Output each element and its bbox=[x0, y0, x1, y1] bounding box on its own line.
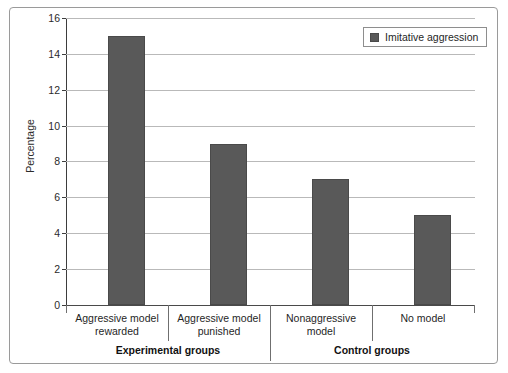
bar-nonaggressive-model[interactable] bbox=[312, 179, 349, 305]
y-tick-label: 12 bbox=[34, 85, 60, 95]
y-axis-title: Percentage bbox=[24, 96, 36, 196]
bar-no-model[interactable] bbox=[414, 215, 451, 305]
group-label-control: Control groups bbox=[270, 344, 474, 356]
bar-aggressive-model-punished[interactable] bbox=[210, 144, 247, 305]
category-label-nonaggressive-model: Nonaggressive model bbox=[270, 312, 372, 337]
y-tick-label: 0 bbox=[34, 300, 60, 310]
category-label-line2: rewarded bbox=[66, 325, 168, 338]
plot-area bbox=[66, 18, 475, 305]
category-label-aggressive-model-punished: Aggressive model punished bbox=[168, 312, 270, 337]
axis-tick-right-edge bbox=[474, 305, 475, 313]
y-tick-label: 6 bbox=[34, 192, 60, 202]
category-label-line1: Aggressive model bbox=[66, 312, 168, 325]
category-label-line1: No model bbox=[372, 312, 474, 325]
legend: Imitative aggression bbox=[363, 27, 487, 47]
y-tick-label: 10 bbox=[34, 121, 60, 131]
category-label-aggressive-model-rewarded: Aggressive model rewarded bbox=[66, 312, 168, 337]
category-label-no-model: No model bbox=[372, 312, 474, 325]
category-label-line2: model bbox=[270, 325, 372, 338]
category-label-line2: punished bbox=[168, 325, 270, 338]
y-tick-label: 8 bbox=[34, 156, 60, 166]
group-label-experimental: Experimental groups bbox=[66, 344, 270, 356]
legend-label: Imitative aggression bbox=[385, 31, 478, 43]
y-tick-label: 16 bbox=[34, 13, 60, 23]
chart-figure: 16 14 12 10 8 6 4 2 0 Percentage bbox=[0, 0, 508, 373]
gridline bbox=[66, 18, 475, 19]
category-label-line1: Nonaggressive bbox=[270, 312, 372, 325]
bar-aggressive-model-rewarded[interactable] bbox=[108, 36, 145, 305]
x-axis-area: Aggressive model rewarded Aggressive mod… bbox=[66, 305, 475, 365]
category-label-line1: Aggressive model bbox=[168, 312, 270, 325]
legend-swatch-imitative-aggression bbox=[370, 33, 379, 42]
y-tick-label: 14 bbox=[34, 49, 60, 59]
y-tick-label: 2 bbox=[34, 264, 60, 274]
y-tick-label: 4 bbox=[34, 228, 60, 238]
